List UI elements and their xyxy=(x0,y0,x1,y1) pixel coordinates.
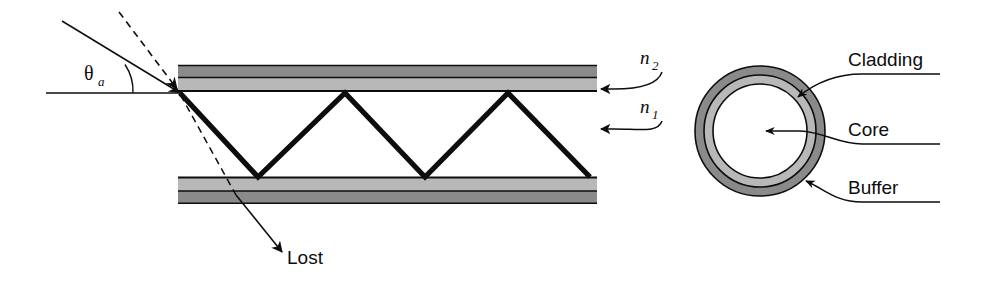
n2-leader-arrow xyxy=(601,72,662,89)
buffer-label: Buffer xyxy=(848,177,899,198)
optical-fiber-figure: θ a Lost n 2 n 1 Cladding xyxy=(0,0,986,282)
upper-cladding-light-band xyxy=(178,78,597,91)
theta-a-label: θ a xyxy=(84,62,105,89)
n2-callout: n 2 xyxy=(601,47,662,89)
n1-leader-arrow xyxy=(601,121,662,130)
theta-symbol: θ xyxy=(84,62,94,84)
lower-cladding-light-band xyxy=(178,178,597,191)
fiber-longitudinal-view: θ a Lost n 2 n 1 xyxy=(46,12,662,268)
guided-ray-zigzag xyxy=(180,93,590,177)
lower-cladding xyxy=(178,178,597,204)
upper-cladding-dark-band xyxy=(178,65,597,77)
n1-subscript: 1 xyxy=(652,107,659,122)
incident-ray-solid xyxy=(62,21,180,93)
n2-symbol: n xyxy=(640,47,650,68)
n1-callout: n 1 xyxy=(601,96,662,130)
cladding-callout: Cladding xyxy=(798,49,940,97)
theta-angle-arc xyxy=(125,65,133,94)
upper-cladding xyxy=(178,65,597,91)
lost-label: Lost xyxy=(287,247,324,268)
buffer-callout: Buffer xyxy=(806,177,940,202)
cladding-label: Cladding xyxy=(848,49,923,70)
cladding-leader-arrow xyxy=(798,74,940,97)
n2-subscript: 2 xyxy=(652,58,659,73)
fiber-cross-section-view: Cladding Core Buffer xyxy=(695,49,940,202)
core-label: Core xyxy=(848,119,889,140)
incident-ray-dashed xyxy=(119,12,177,89)
n1-symbol: n xyxy=(640,96,650,117)
diagram-canvas: θ a Lost n 2 n 1 Cladding xyxy=(0,0,986,282)
theta-subscript: a xyxy=(98,74,105,89)
